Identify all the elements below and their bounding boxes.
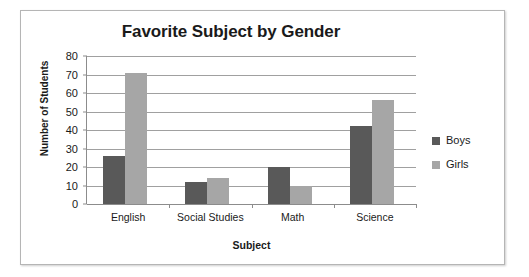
y-tick-label: 60 [66,87,78,99]
y-tick-mark [83,93,87,94]
x-tick-mark [252,204,253,208]
x-tick-label: Math [281,211,304,223]
y-tick-mark [83,74,87,75]
y-tick-label: 40 [66,124,78,136]
x-tick-mark [416,204,417,208]
y-tick-mark [83,204,87,205]
chart-legend: BoysGirls [432,135,502,183]
y-tick-mark [83,130,87,131]
bar-girls-science [372,100,394,204]
y-tick-label: 10 [66,180,78,192]
y-tick-mark [83,111,87,112]
chart-frame: Favorite Subject by Gender Number of Stu… [20,10,505,265]
chart-title: Favorite Subject by Gender [21,22,441,42]
x-axis-title: Subject [87,239,416,251]
legend-swatch-icon [432,161,440,169]
legend-swatch-icon [432,137,440,145]
y-tick-label: 30 [66,143,78,155]
bar-boys-english [103,156,125,204]
plot-inner: 01020304050607080EnglishSocial StudiesMa… [87,56,416,204]
x-tick-label: Science [356,211,393,223]
bar-chart: Favorite Subject by Gender Number of Stu… [21,11,506,266]
x-tick-mark [169,204,170,208]
y-tick-mark [83,185,87,186]
bar-boys-math [268,167,290,204]
bar-girls-math [290,186,312,205]
legend-item-boys[interactable]: Boys [432,135,502,146]
y-tick-label: 80 [66,50,78,62]
legend-item-girls[interactable]: Girls [432,159,502,170]
bar-girls-social-studies [207,178,229,204]
x-tick-mark [334,204,335,208]
plot-area: 01020304050607080EnglishSocial StudiesMa… [87,56,416,204]
x-tick-label: English [111,211,145,223]
bar-boys-science [350,126,372,204]
gridline [87,56,416,57]
legend-label: Boys [446,135,470,146]
y-tick-label: 20 [66,161,78,173]
bar-girls-english [125,73,147,204]
y-tick-mark [83,56,87,57]
y-tick-mark [83,148,87,149]
y-axis-title: Number of Students [39,44,50,174]
y-tick-label: 70 [66,69,78,81]
x-tick-label: Social Studies [177,211,244,223]
y-tick-mark [83,167,87,168]
bar-boys-social-studies [185,182,207,204]
legend-label: Girls [446,159,469,170]
y-tick-label: 50 [66,106,78,118]
y-tick-label: 0 [72,198,78,210]
